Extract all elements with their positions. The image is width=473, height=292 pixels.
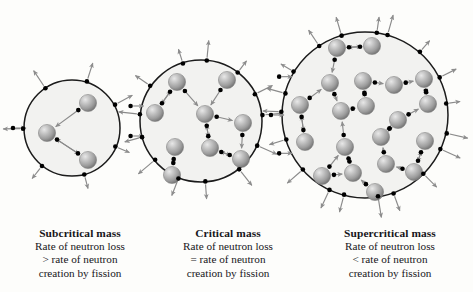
nucleus-critical-5 [166, 138, 183, 155]
nucleus-supercritical-15 [313, 167, 330, 184]
escaping-neutron-arrow [206, 184, 207, 198]
escaping-neutron-arrow [85, 177, 88, 188]
mass-circle-subcritical [24, 80, 120, 176]
neutron-dot [277, 151, 282, 156]
neutron-dot [342, 192, 347, 197]
neutron-dot [204, 58, 209, 63]
escaping-neutron-arrow [125, 138, 139, 142]
escaping-neutron-arrow [388, 15, 393, 32]
nucleus-supercritical-19 [366, 183, 383, 200]
neutron-dot [364, 182, 369, 187]
nucleus-critical-2 [146, 104, 163, 121]
nucleus-critical-0 [168, 73, 185, 90]
neutron-dot [255, 143, 260, 148]
escaping-neutron-arrow [422, 41, 430, 50]
neutron-dot [85, 79, 90, 84]
nucleus-supercritical-4 [385, 76, 402, 93]
neutron-dot [168, 89, 173, 94]
neutron-dot [332, 173, 337, 178]
neutron-dot [55, 137, 60, 142]
escaping-neutron-arrow [269, 140, 283, 144]
neutron-dot [291, 69, 296, 74]
escaping-neutron-arrow [339, 198, 343, 213]
caption-line-subcritical-1: Rate of neutron loss [4, 240, 156, 253]
neutron-dot [332, 92, 337, 97]
caption-supercritical-mass: Supercritical mass Rate of neutron loss … [310, 226, 470, 280]
nucleus-supercritical-16 [344, 164, 361, 181]
neutron-dot [418, 50, 423, 55]
escaping-neutron-arrow [241, 172, 252, 186]
neutron-dot [437, 75, 442, 80]
neutron-dot [206, 134, 211, 139]
escaping-neutron-arrow [450, 134, 468, 138]
neutron-dot [347, 45, 352, 50]
fission-diagram: Subcritical mass Rate of neutron loss > … [0, 0, 473, 292]
neutron-dot [350, 106, 355, 111]
neutron-dot [138, 112, 143, 117]
nucleus-supercritical-14 [416, 132, 433, 149]
neutron-dot [253, 92, 258, 97]
caption-critical-mass: Critical mass Rate of neutron loss = rat… [152, 226, 304, 280]
neutron-dot [235, 70, 240, 75]
neutron-dot [375, 30, 380, 35]
neutron-dot [204, 124, 209, 129]
neutron-dot [76, 151, 81, 156]
neutron-dot [301, 128, 306, 133]
neutron-dot [113, 144, 118, 149]
escaping-neutron-arrow [32, 168, 40, 178]
neutron-dot [373, 80, 378, 85]
nucleus-subcritical-0 [38, 124, 55, 141]
nucleus-supercritical-3 [354, 72, 371, 89]
escaping-neutron-arrow [119, 112, 137, 114]
nucleus-supercritical-8 [357, 97, 374, 114]
nucleus-supercritical-1 [363, 37, 380, 54]
escaping-neutron-arrow [34, 71, 44, 86]
neutron-dot [113, 102, 118, 107]
neutron-dot [444, 101, 449, 106]
neutron-dot [128, 134, 133, 139]
nucleus-supercritical-13 [372, 128, 389, 145]
escaping-neutron-arrow [377, 17, 379, 30]
neutron-dot [227, 153, 232, 158]
escaping-neutron-arrow [88, 63, 93, 78]
neutron-dot [444, 131, 449, 136]
caption-line-supercritical-1: Rate of neutron loss [310, 240, 470, 253]
escaping-neutron-arrow [260, 147, 277, 154]
nucleus-critical-8 [163, 166, 180, 183]
escaping-neutron-arrow [287, 172, 300, 184]
neutron-dot [153, 157, 158, 162]
nucleus-critical-1 [218, 71, 235, 88]
escaping-neutron-arrow [321, 193, 328, 208]
caption-title-subcritical: Subcritical mass [4, 226, 156, 240]
neutron-dot [332, 57, 337, 62]
neutron-dot [269, 113, 274, 118]
nucleus-supercritical-9 [389, 111, 406, 128]
escaping-neutron-arrow [378, 199, 381, 217]
neutron-dot [376, 194, 381, 199]
neutron-dot [183, 89, 188, 94]
caption-line-subcritical-3: creation by fission [4, 267, 156, 280]
neutron-dot [358, 44, 363, 49]
caption-subcritical-mass: Subcritical mass Rate of neutron loss > … [4, 226, 156, 280]
escaping-neutron-arrow [443, 150, 460, 158]
nucleus-critical-7 [232, 150, 249, 167]
neutron-dot [362, 92, 367, 97]
neutron-dot [218, 88, 223, 93]
neutron-dot [82, 172, 87, 177]
neutron-dot [176, 176, 181, 181]
escaping-neutron-arrow [135, 76, 147, 85]
nucleus-supercritical-11 [296, 133, 313, 150]
escaping-neutron-arrow [425, 176, 436, 187]
escaping-neutron-arrow [395, 196, 400, 210]
neutron-dot [406, 112, 411, 117]
nucleus-supercritical-17 [377, 155, 394, 172]
neutron-dot [424, 90, 429, 95]
neutron-dot [385, 33, 390, 38]
neutron-dot [301, 167, 306, 172]
escaping-neutron-arrow [449, 102, 460, 104]
neutron-dot [240, 133, 245, 138]
escaping-neutron-arrow [138, 162, 152, 174]
neutron-dot [400, 166, 405, 171]
neutron-dot [171, 161, 176, 166]
nucleus-critical-3 [196, 105, 213, 122]
